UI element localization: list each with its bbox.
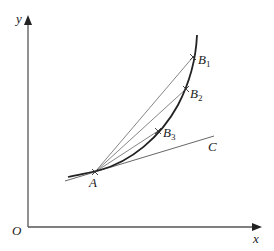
secant-lines [95, 57, 193, 172]
point-b3-subscript: 3 [171, 132, 176, 142]
point-b1-label: B1 [198, 52, 210, 69]
secant-a-b3 [95, 131, 158, 172]
point-b3-letter: B [163, 125, 171, 140]
curve [68, 35, 197, 177]
point-b1-subscript: 1 [206, 59, 211, 69]
secant-a-b1 [95, 57, 193, 172]
origin-label: O [12, 223, 22, 238]
point-b2-subscript: 2 [198, 93, 203, 103]
y-axis-arrow-icon [24, 15, 32, 25]
y-axis-label: y [14, 11, 22, 26]
x-axis-label: x [252, 231, 259, 246]
point-b2-letter: B [190, 86, 198, 101]
point-b1-letter: B [198, 52, 206, 67]
tangent-c-label: C [208, 139, 217, 154]
point-a-label: A [88, 175, 97, 190]
x-axis-arrow-icon [252, 223, 262, 231]
secant-a-b2 [95, 89, 186, 172]
point-b3-label: B3 [163, 125, 176, 142]
point-b2-label: B2 [190, 86, 202, 103]
axes: y x O [12, 11, 262, 246]
secant-tangent-diagram: y x O [0, 0, 274, 251]
